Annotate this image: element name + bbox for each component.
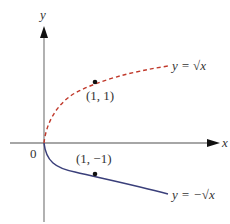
y-axis-arrow-icon — [40, 26, 48, 38]
x-axis-arrow-icon — [207, 139, 220, 147]
lower-curve-label: y = −√x — [172, 188, 215, 201]
x-axis-label: x — [222, 136, 228, 149]
point-upper — [93, 80, 98, 85]
point-lower — [93, 172, 98, 177]
sqrt-curve — [44, 66, 168, 143]
origin-label: 0 — [30, 147, 37, 160]
point-upper-label: (1, 1) — [86, 89, 114, 102]
upper-curve-label: y = √x — [172, 59, 206, 72]
point-lower-label: (1, −1) — [76, 152, 112, 165]
y-axis-label: y — [40, 8, 46, 21]
